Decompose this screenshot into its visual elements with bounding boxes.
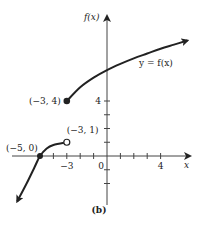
annotation-label: (−5, 0)	[6, 143, 38, 153]
x-tick-label: −3	[60, 161, 74, 171]
point-marker-filled	[37, 153, 43, 159]
x-tick-label: 0	[98, 161, 104, 171]
x-axis-label: x	[184, 160, 189, 170]
annotation-label: (−3, 1)	[67, 125, 99, 135]
annotation-label: (−3, 4)	[29, 96, 61, 106]
point-marker-open	[64, 139, 70, 145]
curve-label: y = f(x)	[138, 58, 173, 68]
chart: −3044xf(x)(−5, 0)(−3, 1)(−3, 4)y = f(x)(…	[0, 0, 199, 229]
figure-caption: (b)	[92, 205, 107, 215]
upper-branch-curve	[67, 41, 188, 102]
point-marker-filled	[64, 98, 71, 105]
y-axis-label: f(x)	[83, 12, 100, 22]
y-tick-label: 4	[95, 96, 101, 106]
x-tick-label: 4	[158, 161, 164, 171]
